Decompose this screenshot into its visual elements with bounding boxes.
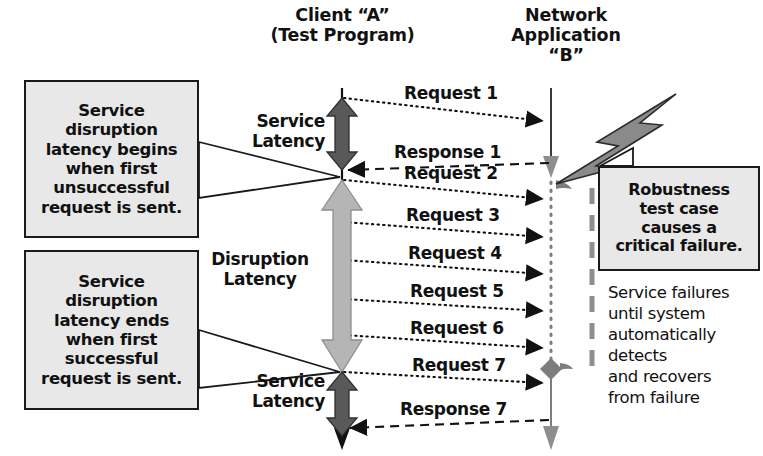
message-arrow-response-7 bbox=[350, 420, 549, 428]
message-label-request-3: Request 3 bbox=[406, 206, 500, 225]
disruption-latency-label: Disruption Latency bbox=[195, 250, 325, 289]
message-label-response-1: Response 1 bbox=[394, 143, 501, 162]
message-label-request-7: Request 7 bbox=[412, 356, 506, 375]
failure-duration-note: Service failures until system automatica… bbox=[608, 283, 763, 409]
service-latency-top-arrow bbox=[327, 98, 357, 170]
disruption-latency-arrow bbox=[322, 180, 362, 372]
callout-disruption-ends: Service disruption latency ends when fir… bbox=[24, 250, 199, 410]
callout-disruption-begins: Service disruption latency begins when f… bbox=[24, 80, 199, 238]
service-latency-bottom-arrow bbox=[327, 372, 357, 436]
message-label-request-6: Request 6 bbox=[410, 319, 504, 338]
service-latency-top-label: Service Latency bbox=[205, 112, 325, 151]
message-label-request-4: Request 4 bbox=[408, 244, 502, 263]
message-label-request-2: Request 2 bbox=[404, 164, 498, 183]
lifeline-a-header: Client “A” (Test Program) bbox=[250, 6, 435, 46]
service-latency-bottom-label: Service Latency bbox=[205, 372, 325, 411]
lifeline-b-header: Network Application “B” bbox=[492, 6, 640, 65]
sequence-diagram-canvas: Client “A” (Test Program) Network Applic… bbox=[0, 0, 763, 456]
lifeline-b-failure-arrow bbox=[543, 156, 559, 178]
message-label-response-7: Response 7 bbox=[400, 400, 507, 419]
callout-robustness-test-case: Robustness test case causes a critical f… bbox=[598, 166, 760, 271]
message-label-request-5: Request 5 bbox=[410, 282, 504, 301]
message-label-request-1: Request 1 bbox=[404, 84, 498, 103]
lifeline-b-end-arrow bbox=[543, 426, 559, 450]
lifeline-b bbox=[540, 88, 573, 450]
